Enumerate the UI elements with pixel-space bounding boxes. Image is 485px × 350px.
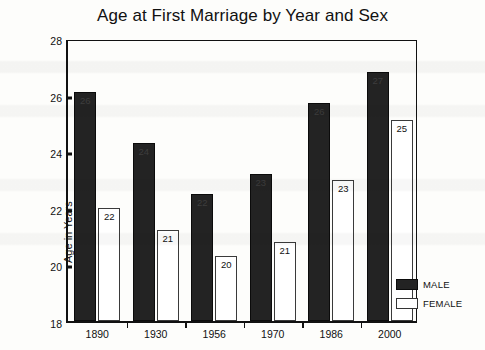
bar-female-1956[interactable]: 20: [215, 256, 237, 321]
bar-male-1956[interactable]: 22: [191, 194, 213, 321]
bar-male-1890[interactable]: 26: [74, 92, 96, 321]
bar-female-1986[interactable]: 23: [332, 180, 354, 322]
bar-group: 2220: [185, 41, 244, 321]
x-tick-label: 1956: [184, 328, 244, 340]
bar-value-label: 23: [251, 178, 271, 188]
legend-swatch-male: [396, 279, 418, 290]
bar-value-label: 23: [333, 184, 353, 194]
chart-title: Age at First Marriage by Year and Sex: [0, 6, 485, 26]
x-tick-mark: [244, 323, 246, 328]
bar-value-label: 22: [99, 212, 119, 222]
bar-value-label: 24: [134, 147, 154, 157]
chart-legend: MALEFEMALE: [396, 279, 462, 317]
x-tick-label: 1930: [126, 328, 186, 340]
bar-female-1890[interactable]: 22: [98, 208, 120, 321]
bar-group: 2321: [244, 41, 303, 321]
x-tick-mark: [361, 323, 363, 328]
bars-layer: 262224212220232126232725: [68, 41, 416, 321]
x-tick-mark: [127, 323, 129, 328]
bar-value-label: 27: [368, 76, 388, 86]
bar-value-label: 26: [309, 107, 329, 117]
bar-group: 2622: [68, 41, 127, 321]
x-tick-label: 2000: [360, 328, 420, 340]
y-tick-label: 22: [50, 205, 62, 217]
legend-item-male[interactable]: MALE: [396, 279, 462, 290]
y-tick-label: 26: [50, 92, 62, 104]
y-tick-label: 28: [50, 35, 62, 47]
plot-area: Age in Years 182022242628 26222421222023…: [66, 40, 417, 323]
x-tick-mark: [302, 323, 304, 328]
bar-male-1986[interactable]: 26: [308, 103, 330, 321]
x-tick-label: 1986: [301, 328, 361, 340]
bar-female-1930[interactable]: 21: [157, 230, 179, 321]
legend-label: FEMALE: [423, 298, 462, 309]
y-tick-label: 20: [50, 261, 62, 273]
legend-swatch-female: [396, 298, 418, 309]
bar-value-label: 25: [392, 124, 412, 134]
bar-male-2000[interactable]: 27: [367, 72, 389, 321]
y-tick-label: 18: [50, 318, 62, 330]
bar-value-label: 26: [75, 96, 95, 106]
bar-value-label: 22: [192, 198, 212, 208]
bar-value-label: 21: [275, 246, 295, 256]
bar-group: 2421: [127, 41, 186, 321]
legend-item-female[interactable]: FEMALE: [396, 298, 462, 309]
bar-value-label: 20: [216, 260, 236, 270]
x-tick-label: 1890: [67, 328, 127, 340]
x-tick-mark: [185, 323, 187, 328]
legend-label: MALE: [423, 279, 450, 290]
bar-male-1970[interactable]: 23: [250, 174, 272, 321]
bar-female-1970[interactable]: 21: [274, 242, 296, 321]
bar-group: 2623: [302, 41, 361, 321]
x-tick-label: 1970: [243, 328, 303, 340]
y-tick-label: 24: [50, 148, 62, 160]
bar-male-1930[interactable]: 24: [133, 143, 155, 321]
bar-value-label: 21: [158, 234, 178, 244]
